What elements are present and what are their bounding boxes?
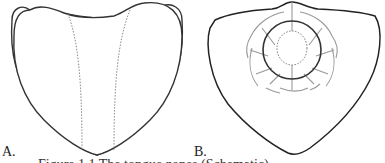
tongue-diagram <box>0 0 385 163</box>
panel-a-label: A. <box>2 145 16 159</box>
tongue-a-shape <box>14 3 182 155</box>
figure: A. B. Figure 1.1 The tongue zones (Schem… <box>0 0 385 163</box>
inner-dotted-ellipse <box>277 31 307 65</box>
figure-caption: Figure 1.1 The tongue zones (Schematic) <box>38 157 269 163</box>
tongue-b-shape <box>208 2 380 154</box>
